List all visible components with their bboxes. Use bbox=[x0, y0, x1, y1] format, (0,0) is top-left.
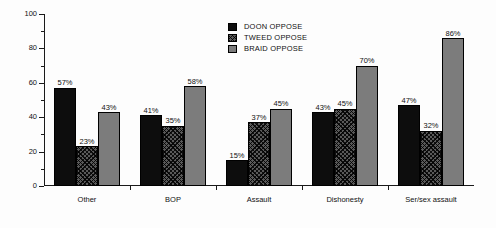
bar: 86% bbox=[442, 38, 464, 186]
x-tick bbox=[388, 186, 389, 190]
bar: 23% bbox=[76, 146, 98, 186]
legend-swatch-icon bbox=[228, 45, 237, 53]
y-tick-major bbox=[39, 186, 44, 187]
bar-value-label: 70% bbox=[359, 57, 374, 65]
bar: 15% bbox=[226, 160, 248, 186]
legend-label: DOON OPPOSE bbox=[244, 23, 302, 31]
legend-item: TWEED OPPOSE bbox=[228, 33, 307, 43]
bar-slot: 45% bbox=[334, 14, 356, 186]
x-axis-label: Dishonesty bbox=[302, 196, 388, 204]
bar-slot: 32% bbox=[420, 14, 442, 186]
bar: 41% bbox=[140, 115, 162, 186]
bar-value-label: 45% bbox=[337, 100, 352, 108]
bar-value-label: 41% bbox=[143, 107, 158, 115]
bar: 45% bbox=[334, 109, 356, 186]
bar: 47% bbox=[398, 105, 420, 186]
bar: 57% bbox=[54, 88, 76, 186]
bar-value-label: 43% bbox=[101, 104, 116, 112]
x-axis-label: BOP bbox=[130, 196, 216, 204]
bar-value-label: 35% bbox=[165, 117, 180, 125]
bar-value-label: 58% bbox=[187, 78, 202, 86]
bar-value-label: 57% bbox=[57, 79, 72, 87]
bar-group: 43%45%70% bbox=[302, 14, 388, 186]
bar-slot: 43% bbox=[312, 14, 334, 186]
bar-value-label: 15% bbox=[229, 152, 244, 160]
bar-value-label: 23% bbox=[79, 138, 94, 146]
y-tick-label: 0 bbox=[33, 182, 37, 190]
y-tick-label: 20 bbox=[29, 148, 37, 156]
x-tick bbox=[216, 186, 217, 190]
bar: 37% bbox=[248, 122, 270, 186]
bar-slot: 57% bbox=[54, 14, 76, 186]
bar-value-label: 37% bbox=[251, 114, 266, 122]
bar: 45% bbox=[270, 109, 292, 186]
bar: 70% bbox=[356, 66, 378, 186]
legend-label: BRAID OPPOSE bbox=[244, 45, 303, 53]
bar-chart: 020406080100 57%23%43%41%35%58%15%37%45%… bbox=[0, 0, 496, 228]
y-tick-label: 40 bbox=[29, 113, 37, 121]
bar-slot: 35% bbox=[162, 14, 184, 186]
bar-value-label: 86% bbox=[445, 30, 460, 38]
bar-slot: 70% bbox=[356, 14, 378, 186]
y-tick-label: 60 bbox=[29, 79, 37, 87]
bar-slot: 43% bbox=[98, 14, 120, 186]
bar-group: 41%35%58% bbox=[130, 14, 216, 186]
bar-slot: 86% bbox=[442, 14, 464, 186]
bar-group: 47%32%86% bbox=[388, 14, 474, 186]
y-tick-label: 100 bbox=[24, 10, 37, 18]
bar-value-label: 43% bbox=[315, 104, 330, 112]
bar-group: 57%23%43% bbox=[44, 14, 130, 186]
bar: 58% bbox=[184, 86, 206, 186]
bar: 35% bbox=[162, 126, 184, 186]
bar: 32% bbox=[420, 131, 442, 186]
legend-swatch-icon bbox=[228, 23, 237, 31]
legend-swatch-icon bbox=[228, 34, 237, 42]
x-axis-label: Assault bbox=[216, 196, 302, 204]
x-axis-category-labels: OtherBOPAssaultDishonestySer/sex assault bbox=[44, 196, 474, 204]
x-axis-label: Other bbox=[44, 196, 130, 204]
legend-item: DOON OPPOSE bbox=[228, 22, 307, 32]
bar-slot: 41% bbox=[140, 14, 162, 186]
bar: 43% bbox=[98, 112, 120, 186]
bar: 43% bbox=[312, 112, 334, 186]
x-axis-label: Ser/sex assault bbox=[388, 196, 474, 204]
bar-slot: 23% bbox=[76, 14, 98, 186]
bar-value-label: 32% bbox=[423, 122, 438, 130]
bar-slot: 47% bbox=[398, 14, 420, 186]
bar-value-label: 45% bbox=[273, 100, 288, 108]
legend-item: BRAID OPPOSE bbox=[228, 44, 307, 54]
chart-legend: DOON OPPOSETWEED OPPOSEBRAID OPPOSE bbox=[228, 22, 307, 55]
bar-slot: 58% bbox=[184, 14, 206, 186]
x-tick bbox=[130, 186, 131, 190]
y-tick-label: 80 bbox=[29, 45, 37, 53]
x-tick bbox=[302, 186, 303, 190]
legend-label: TWEED OPPOSE bbox=[244, 34, 307, 42]
bar-value-label: 47% bbox=[401, 97, 416, 105]
